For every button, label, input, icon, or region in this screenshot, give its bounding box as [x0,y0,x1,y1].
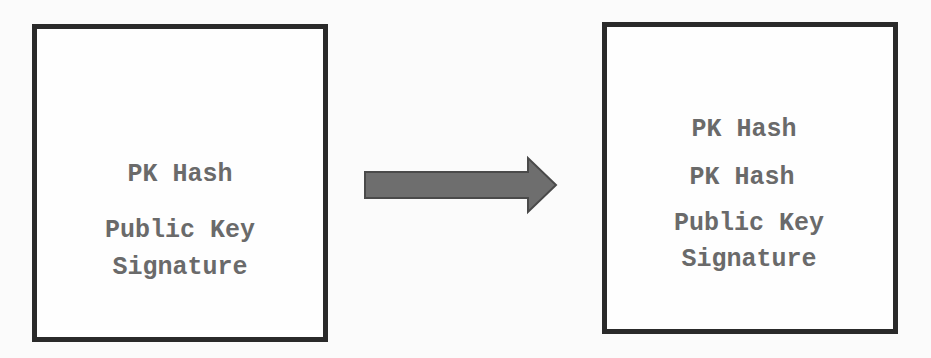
public-key-label: Public Key [605,209,893,239]
input-box: PK Hash Public Key Signature [32,24,328,342]
output-box: PK Hash PK Hash Public Key Signature [602,22,898,334]
pk-hash-label: PK Hash [37,160,323,190]
signature-label: Signature [605,245,893,275]
public-key-label: Public Key [37,216,323,246]
signature-label: Signature [37,253,323,283]
right-arrow-icon [360,150,560,220]
pk-hash-label-1: PK Hash [595,115,893,145]
pk-hash-label-2: PK Hash [591,163,893,193]
